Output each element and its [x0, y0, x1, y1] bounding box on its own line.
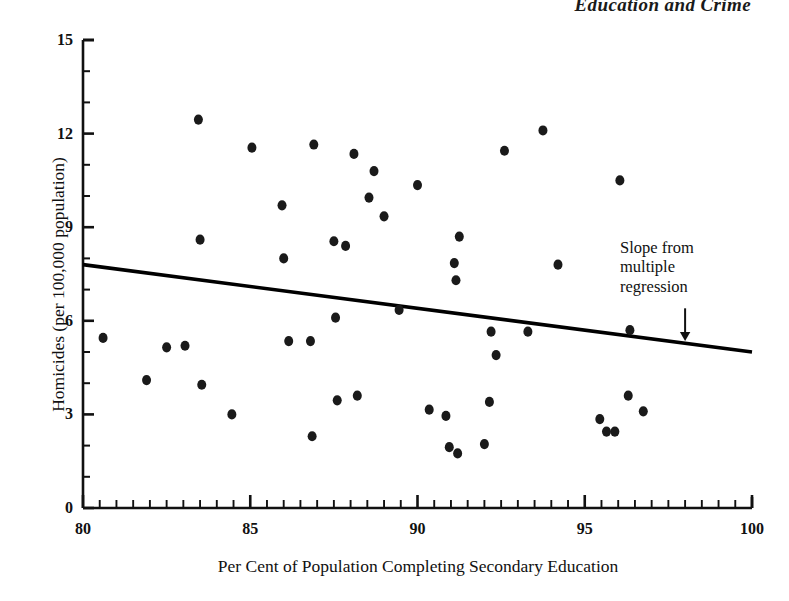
data-point: [553, 260, 562, 270]
regression-annotation: Slope from multiple regression: [620, 238, 694, 296]
data-point: [451, 275, 460, 285]
data-point: [284, 336, 293, 346]
data-point: [480, 439, 489, 449]
data-point: [99, 333, 108, 343]
data-point: [485, 397, 494, 407]
data-point: [370, 166, 379, 176]
data-point: [279, 253, 288, 263]
data-point: [349, 149, 358, 159]
data-point: [227, 409, 236, 419]
data-point: [624, 391, 633, 401]
y-axis-title: Homicides (per 100,000 population): [48, 75, 69, 495]
data-point: [380, 211, 389, 221]
data-point: [595, 414, 604, 424]
annotation-arrow-head: [680, 332, 690, 341]
data-point: [194, 114, 203, 124]
data-point: [487, 327, 496, 337]
data-point: [395, 305, 404, 315]
y-tick-label: 0: [45, 499, 73, 517]
data-point: [523, 327, 532, 337]
data-points-group: [99, 114, 648, 458]
x-tick-label: 80: [75, 520, 91, 538]
data-point: [341, 241, 350, 251]
data-point: [247, 143, 256, 153]
x-tick-label: 95: [577, 520, 593, 538]
data-point: [425, 405, 434, 415]
data-point: [450, 258, 459, 268]
data-point: [162, 342, 171, 352]
data-point: [413, 180, 422, 190]
plot-canvas: [0, 0, 789, 601]
x-tick-label: 100: [740, 520, 764, 538]
data-point: [445, 442, 454, 452]
data-point: [181, 341, 190, 351]
data-point: [197, 380, 206, 390]
data-point: [364, 192, 373, 202]
data-point: [441, 411, 450, 421]
data-point: [610, 426, 619, 436]
data-point: [500, 146, 509, 156]
data-point: [142, 375, 151, 385]
data-point: [329, 236, 338, 246]
data-point: [333, 395, 342, 405]
data-point: [309, 139, 318, 149]
x-tick-label: 85: [242, 520, 258, 538]
scatter-plot-figure: 8085909510003691215 Per Cent of Populati…: [0, 0, 789, 601]
data-point: [455, 231, 464, 241]
data-point: [538, 125, 547, 135]
data-point: [278, 200, 287, 210]
data-point: [492, 350, 501, 360]
data-point: [602, 426, 611, 436]
data-point: [615, 175, 624, 185]
data-point: [331, 313, 340, 323]
x-axis-title: Per Cent of Population Completing Second…: [83, 556, 753, 577]
data-point: [196, 235, 205, 245]
data-point: [639, 406, 648, 416]
x-tick-label: 90: [410, 520, 426, 538]
data-point: [625, 325, 634, 335]
annotation-arrow-group: [680, 308, 690, 341]
data-point: [353, 391, 362, 401]
y-tick-label: 15: [45, 31, 73, 49]
data-point: [306, 336, 315, 346]
data-point: [308, 431, 317, 441]
figure-page: Education and Crime 8085909510003691215 …: [0, 0, 789, 601]
data-point: [453, 448, 462, 458]
